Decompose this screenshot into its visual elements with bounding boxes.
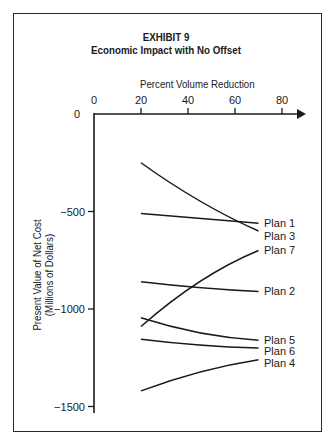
x-ticks: 020406080 xyxy=(91,94,288,114)
series-label-plan-2: Plan 2 xyxy=(264,285,295,297)
series-line-plan-1 xyxy=(141,213,259,223)
series-lines xyxy=(141,163,259,391)
series-labels: Plan 1Plan 3Plan 7Plan 2Plan 5Plan 6Plan… xyxy=(264,217,295,369)
series-label-plan-3: Plan 3 xyxy=(264,230,295,242)
series-line-plan-5 xyxy=(141,318,259,340)
x-tick-label: 60 xyxy=(229,94,241,106)
y-tick-label: −1500 xyxy=(54,401,85,413)
series-line-plan-6 xyxy=(141,339,259,348)
x-axis-arrow-icon xyxy=(297,109,306,119)
y-tick-label: −500 xyxy=(60,206,85,218)
y-tick-label: −1000 xyxy=(54,303,85,315)
series-line-plan-3 xyxy=(141,163,259,231)
y-ticks: 0−500−1000−1500 xyxy=(54,108,94,413)
y-tick-label: 0 xyxy=(74,108,80,120)
series-label-plan-4: Plan 4 xyxy=(264,357,295,369)
x-tick-label: 0 xyxy=(91,94,97,106)
series-label-plan-7: Plan 7 xyxy=(264,244,295,256)
series-line-plan-2 xyxy=(141,282,259,292)
series-line-plan-7 xyxy=(141,251,259,327)
series-label-plan-1: Plan 1 xyxy=(264,217,295,229)
series-label-plan-6: Plan 6 xyxy=(264,345,295,357)
x-tick-label: 80 xyxy=(276,94,288,106)
series-line-plan-4 xyxy=(141,360,259,391)
x-tick-label: 20 xyxy=(135,94,147,106)
x-tick-label: 40 xyxy=(182,94,194,106)
plot-area: 020406080 0−500−1000−1500 Plan 1Plan 3Pl… xyxy=(0,0,332,445)
